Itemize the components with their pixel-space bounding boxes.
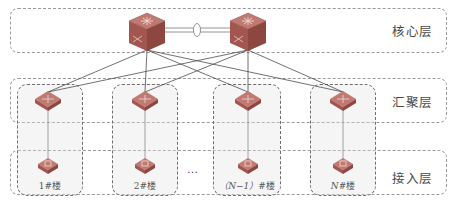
aggregation-switch-icon <box>234 90 262 112</box>
aggregation-switch-icon <box>34 90 62 112</box>
access-switch-icon <box>332 157 354 175</box>
aggregation-switch-icon <box>329 90 357 112</box>
access-layer-label: 接入层 <box>392 168 433 187</box>
core-switch-icon <box>128 12 166 52</box>
access-switch-icon <box>134 157 156 175</box>
core-interlink <box>165 24 230 37</box>
aggregation-layer-label: 汇聚层 <box>392 92 433 111</box>
building-label-n: N#楼 <box>331 179 355 192</box>
core-switch-icon <box>229 12 267 52</box>
ellipsis: … <box>187 163 199 176</box>
access-switch-icon <box>237 157 259 175</box>
building-label-n-minus-1: （N−1）#楼 <box>219 179 275 192</box>
building-label-1: 1#楼 <box>39 179 61 192</box>
connection-lines <box>0 0 453 206</box>
core-layer-label: 核心层 <box>392 21 433 40</box>
access-switch-icon <box>37 157 59 175</box>
aggregation-switch-icon <box>131 90 159 112</box>
building-label-2: 2#楼 <box>134 179 156 192</box>
